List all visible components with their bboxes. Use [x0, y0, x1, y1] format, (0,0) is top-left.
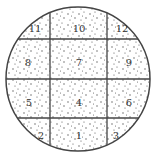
section-label-10: 10: [73, 23, 86, 34]
section-label-3: 3: [113, 130, 119, 141]
section-label-1: 1: [76, 130, 82, 141]
section-label-8: 8: [25, 57, 31, 68]
section-label-9: 9: [126, 57, 132, 68]
section-label-12: 12: [116, 23, 129, 34]
section-label-7: 7: [76, 57, 82, 68]
section-label-4: 4: [76, 97, 82, 108]
sectioned-circle-diagram: 111012879546213: [0, 0, 155, 158]
section-label-5: 5: [26, 97, 32, 108]
section-label-2: 2: [38, 130, 44, 141]
section-label-11: 11: [29, 23, 42, 34]
section-label-6: 6: [126, 97, 132, 108]
